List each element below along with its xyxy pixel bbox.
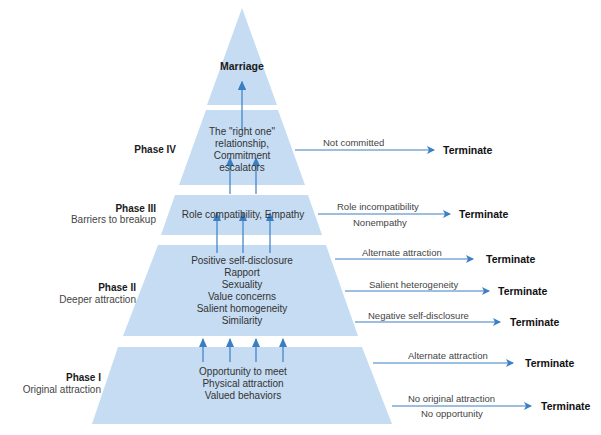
phase-iv-title: Phase IV — [110, 144, 176, 156]
factor: Value concerns — [176, 291, 308, 303]
factor: The "right one" — [192, 126, 292, 138]
factor: Salient homogeneity — [176, 303, 308, 315]
exit-reason: Not committed — [323, 137, 384, 149]
factor: escalators — [192, 162, 292, 174]
terminate-label: Terminate — [498, 285, 547, 297]
factor: Rapport — [176, 267, 308, 279]
terminate-label: Terminate — [459, 208, 508, 220]
phase-ii-factors: Positive self-disclosure Rapport Sexuali… — [176, 255, 308, 327]
terminate-label: Terminate — [486, 253, 535, 265]
terminate-label: Terminate — [443, 144, 492, 156]
factor: Role compatibility, Empathy — [174, 209, 312, 221]
phase-iii-subtitle: Barriers to breakup — [50, 214, 156, 226]
phase-iv-factors: The "right one" relationship, Commitment… — [192, 126, 292, 174]
phase-ii-subtitle: Deeper attraction — [30, 294, 136, 306]
exit-reason: Nonempathy — [353, 217, 407, 229]
phase-i-factors: Opportunity to meet Physical attraction … — [178, 366, 308, 402]
phase-i-subtitle: Original attraction — [0, 384, 101, 396]
phase-iii-factors: Role compatibility, Empathy — [174, 209, 312, 221]
exit-reason: Alternate attraction — [408, 350, 488, 362]
factor: Opportunity to meet — [178, 366, 308, 378]
exit-reason: Salient heterogeneity — [369, 279, 458, 291]
factor: Valued behaviors — [178, 390, 308, 402]
factor: Similarity — [176, 315, 308, 327]
exit-reason: Role incompatibility — [337, 201, 419, 213]
factor: Sexuality — [176, 279, 308, 291]
exit-reason: Negative self-disclosure — [368, 310, 469, 322]
factor: Physical attraction — [178, 378, 308, 390]
marriage-label: Marriage — [220, 60, 264, 72]
terminate-label: Terminate — [541, 400, 590, 412]
phase-ii-title: Phase II — [70, 282, 136, 294]
terminate-label: Terminate — [510, 316, 559, 328]
exit-reason: No opportunity — [421, 408, 483, 420]
exit-reason: Alternate attraction — [362, 247, 442, 259]
factor: Commitment — [192, 150, 292, 162]
terminate-label: Terminate — [525, 357, 574, 369]
exit-reason: No original attraction — [408, 393, 495, 405]
phase-i-title: Phase I — [35, 372, 101, 384]
factor: Positive self-disclosure — [176, 255, 308, 267]
factor: relationship, — [192, 138, 292, 150]
